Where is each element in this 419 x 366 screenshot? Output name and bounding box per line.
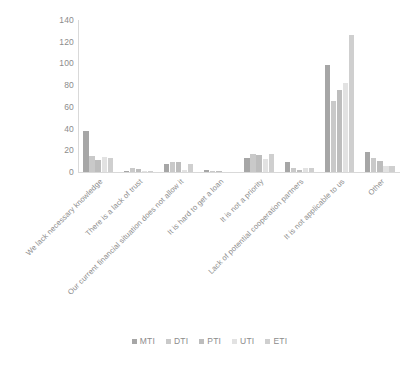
bar[interactable] [210, 171, 215, 172]
legend-swatch-icon [132, 339, 137, 344]
bar[interactable] [170, 162, 175, 172]
bar[interactable] [108, 158, 113, 172]
y-axis-labels: 020406080100120140 [52, 20, 74, 172]
legend-label: ETI [273, 336, 287, 346]
bar[interactable] [83, 131, 88, 172]
legend-label: MTI [140, 336, 155, 346]
bar[interactable] [383, 166, 388, 173]
bar[interactable] [148, 171, 153, 172]
bar-group [320, 20, 360, 172]
bar[interactable] [349, 35, 354, 172]
legend-label: PTI [207, 336, 221, 346]
bar[interactable] [130, 168, 135, 172]
legend-item-eti[interactable]: ETI [265, 336, 287, 346]
y-tick-label: 140 [59, 15, 74, 25]
bar[interactable] [204, 170, 209, 172]
bar[interactable] [269, 154, 274, 172]
legend-item-mti[interactable]: MTI [132, 336, 155, 346]
bar[interactable] [124, 171, 129, 172]
bar[interactable] [309, 168, 314, 172]
legend-item-dti[interactable]: DTI [166, 336, 188, 346]
bar[interactable] [250, 154, 255, 172]
legend-label: DTI [174, 336, 188, 346]
bar-group [239, 20, 279, 172]
bar-chart: 020406080100120140 We lack necessary kno… [0, 0, 419, 366]
bar[interactable] [102, 157, 107, 172]
x-axis-baseline [78, 172, 400, 173]
bar[interactable] [256, 155, 261, 172]
bar[interactable] [365, 152, 370, 172]
bar[interactable] [216, 171, 221, 172]
legend-item-uti[interactable]: UTI [232, 336, 254, 346]
bar[interactable] [136, 169, 141, 172]
legend-swatch-icon [232, 339, 237, 344]
bar[interactable] [263, 159, 268, 172]
bar-group [159, 20, 199, 172]
bar[interactable] [331, 101, 336, 172]
bar[interactable] [244, 158, 249, 172]
legend-label: UTI [240, 336, 254, 346]
y-tick-label: 20 [64, 145, 74, 155]
legend-swatch-icon [166, 339, 171, 344]
plot-area [78, 20, 400, 172]
bar[interactable] [325, 65, 330, 172]
bar[interactable] [285, 162, 290, 172]
bar-group [360, 20, 400, 172]
y-tick-label: 120 [59, 37, 74, 47]
bar[interactable] [291, 168, 296, 172]
bar[interactable] [164, 164, 169, 172]
bar[interactable] [176, 162, 181, 172]
legend-swatch-icon [265, 339, 270, 344]
y-tick-label: 0 [69, 167, 74, 177]
y-tick-label: 80 [64, 80, 74, 90]
y-tick-label: 40 [64, 124, 74, 134]
legend-swatch-icon [199, 339, 204, 344]
chart-legend: MTIDTIPTIUTIETI [0, 336, 419, 346]
y-tick-label: 60 [64, 102, 74, 112]
bar[interactable] [95, 160, 100, 172]
bar[interactable] [371, 158, 376, 172]
bar[interactable] [188, 164, 193, 172]
bar[interactable] [343, 83, 348, 172]
bar-group [118, 20, 158, 172]
bar[interactable] [297, 170, 302, 172]
bar-group [199, 20, 239, 172]
bar[interactable] [389, 166, 394, 173]
bar-group [279, 20, 319, 172]
bar[interactable] [142, 171, 147, 172]
bar[interactable] [182, 170, 187, 172]
bar-group [78, 20, 118, 172]
bar[interactable] [377, 161, 382, 172]
bar[interactable] [337, 90, 342, 173]
y-tick-label: 100 [59, 58, 74, 68]
bar[interactable] [89, 156, 94, 172]
legend-item-pti[interactable]: PTI [199, 336, 221, 346]
bar[interactable] [303, 168, 308, 172]
